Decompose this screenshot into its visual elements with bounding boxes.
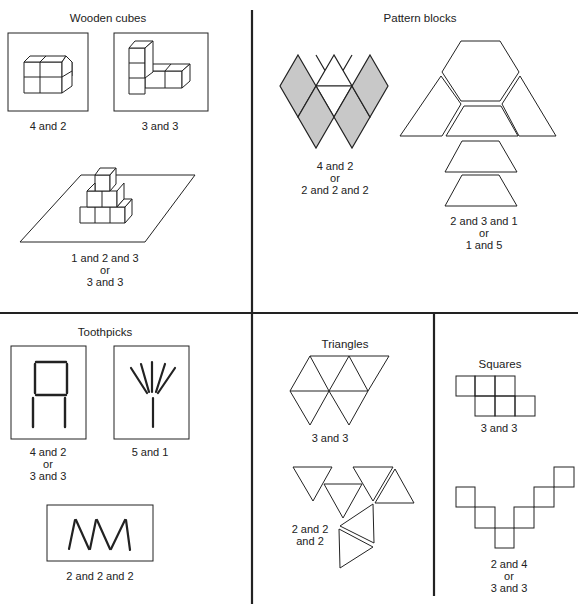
wooden-cubes-4-and-2-figure — [8, 33, 88, 111]
squares-label-1: 3 and 3 — [474, 422, 524, 434]
wooden-cubes-label-2: 3 and 3 — [130, 120, 190, 132]
triangles-2-2-2-figure — [293, 467, 414, 568]
wooden-cubes-label-1: 4 and 2 — [18, 120, 78, 132]
toothpicks-label-3: 2 and 2 and 2 — [55, 570, 145, 582]
triangles-label-2: 2 and 2 and 2 — [285, 523, 335, 547]
squares-3-and-3-figure — [456, 376, 535, 416]
toothpicks-label-2: 5 and 1 — [120, 446, 180, 458]
pattern-blocks-label-1: 4 and 2 or 2 and 2 and 2 — [285, 160, 385, 196]
pattern-blocks-label-2: 2 and 3 and 1 or 1 and 5 — [434, 215, 534, 251]
wooden-cubes-label-3: 1 and 2 and 3 or 3 and 3 — [60, 252, 150, 288]
pattern-blocks-hexagon-figure — [400, 41, 556, 206]
triangles-label-1: 3 and 3 — [300, 432, 360, 444]
triangles-3-and-3-figure — [290, 356, 389, 425]
diagram-artwork — [0, 0, 585, 610]
squares-title: Squares — [475, 358, 525, 370]
wooden-cubes-title: Wooden cubes — [68, 12, 148, 24]
triangles-title: Triangles — [315, 338, 375, 350]
pattern-blocks-rhombus-figure — [280, 55, 388, 148]
pattern-blocks-title: Pattern blocks — [375, 12, 465, 24]
toothpicks-title: Toothpicks — [70, 326, 140, 338]
squares-v-figure — [456, 467, 574, 548]
wooden-cubes-3-and-3-figure — [114, 33, 208, 111]
toothpicks-label-1: 4 and 2 or 3 and 3 — [18, 446, 78, 482]
wooden-cubes-pyramid-figure — [20, 168, 195, 242]
squares-label-2: 2 and 4 or 3 and 3 — [484, 558, 534, 594]
